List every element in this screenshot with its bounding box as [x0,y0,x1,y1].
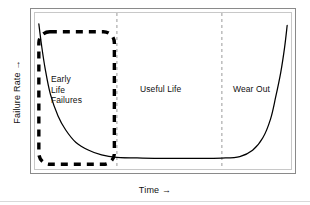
zone-label-wear-out: Wear Out [233,84,270,95]
x-axis-label: Time → [0,185,310,195]
y-axis-label: Failure Rate → [12,42,22,142]
bathtub-curve-figure: Early Life Failures Useful Life Wear Out… [0,0,310,205]
figure-bottom-rule [0,201,310,202]
zone-label-early-life-failures: Early Life Failures [51,74,82,106]
zone-label-useful-life: Useful Life [140,84,181,95]
